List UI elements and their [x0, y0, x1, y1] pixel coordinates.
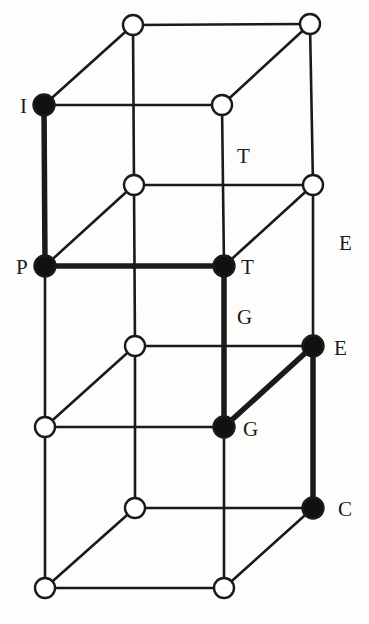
open-node — [124, 175, 144, 195]
filled-node-i — [34, 95, 55, 116]
lattice-edge — [44, 25, 133, 105]
filled-node-e — [303, 336, 324, 357]
highlighted-edge — [44, 105, 45, 266]
node-label-g1: G — [237, 305, 252, 329]
lattice-diagram: ITEPTGEGC — [0, 0, 369, 624]
node-layer — [34, 14, 324, 598]
open-node — [125, 498, 145, 518]
lattice-edge — [134, 185, 135, 346]
edge-layer — [44, 24, 313, 588]
lattice-edge — [222, 24, 310, 105]
lattice-edge — [45, 185, 134, 266]
label-layer: ITEPTGEGC — [16, 94, 352, 521]
node-label-g2: G — [243, 417, 258, 441]
lattice-edge — [224, 508, 313, 588]
highlighted-edge — [224, 346, 313, 427]
filled-node-g — [214, 417, 235, 438]
lattice-edge — [133, 25, 134, 185]
node-label-p: P — [16, 255, 28, 279]
lattice-graph-canvas: ITEPTGEGC — [0, 0, 369, 624]
filled-node-c — [303, 498, 324, 519]
node-label-t1: T — [237, 144, 250, 168]
node-label-t2: T — [241, 255, 254, 279]
lattice-edge — [224, 185, 313, 266]
filled-node-t — [214, 256, 235, 277]
lattice-edge — [45, 508, 135, 588]
lattice-edge — [310, 24, 313, 185]
filled-node-p — [35, 256, 56, 277]
open-node — [35, 417, 55, 437]
node-label-e2: E — [334, 336, 347, 360]
lattice-edge — [133, 24, 310, 25]
open-node — [300, 14, 320, 34]
lattice-edge — [45, 346, 135, 427]
node-label-e1: E — [339, 231, 352, 255]
open-node — [35, 578, 55, 598]
open-node — [123, 15, 143, 35]
node-label-c: C — [338, 497, 352, 521]
open-node — [214, 578, 234, 598]
open-node — [125, 336, 145, 356]
open-node — [303, 175, 323, 195]
open-node — [212, 95, 232, 115]
node-label-i: I — [20, 94, 27, 118]
